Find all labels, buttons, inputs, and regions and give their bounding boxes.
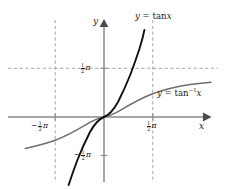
y-neg-tick-fraction: 12 xyxy=(81,150,86,162)
x-neg-tick-denominator: 2 xyxy=(38,127,43,133)
y-pos-tick-denominator: 2 xyxy=(81,69,86,75)
x-neg-tick-fraction: 12 xyxy=(38,121,43,133)
x-tick-label-positive-halfpi: 12π xyxy=(146,121,157,133)
y-pos-tick-pi: π xyxy=(86,63,91,72)
tan-label-equals: = xyxy=(143,11,150,21)
x-neg-tick-sign: − xyxy=(31,121,37,130)
y-tick-label-negative-halfpi: −12π xyxy=(74,150,91,162)
arctan-label-equals: = xyxy=(165,88,172,98)
tan-curve-label: y = tanx xyxy=(135,12,172,21)
tan-label-lhs: y xyxy=(135,11,140,21)
arctan-curve-label: y = tan−1x xyxy=(157,88,201,97)
y-tick-label-positive-halfpi: 12π xyxy=(80,63,91,75)
x-neg-tick-pi: π xyxy=(43,121,48,130)
arctan-label-argument: x xyxy=(197,88,202,98)
y-neg-tick-sign: − xyxy=(74,150,80,159)
x-tick-label-negative-halfpi: −12π xyxy=(31,121,48,133)
tan-label-function: tan xyxy=(153,11,167,21)
y-axis-label: y xyxy=(93,17,98,26)
math-graph-figure: y x y = tanx y = tan−1x 12π −12π −12π 12… xyxy=(0,0,226,189)
x-pos-tick-pi: π xyxy=(152,121,157,130)
y-pos-tick-fraction: 12 xyxy=(81,63,86,75)
tan-label-argument: x xyxy=(167,11,172,21)
y-neg-tick-denominator: 2 xyxy=(81,156,86,162)
y-axis-arrowhead xyxy=(100,19,109,27)
arctan-label-lhs: y xyxy=(157,88,162,98)
x-axis-arrowhead xyxy=(203,113,212,122)
x-pos-tick-denominator: 2 xyxy=(147,127,152,133)
arctan-label-function: tan xyxy=(175,88,189,98)
y-neg-tick-pi: π xyxy=(86,150,91,159)
x-pos-tick-fraction: 12 xyxy=(147,121,152,133)
arctan-label-exponent: −1 xyxy=(189,87,197,93)
x-axis-label: x xyxy=(199,122,204,131)
